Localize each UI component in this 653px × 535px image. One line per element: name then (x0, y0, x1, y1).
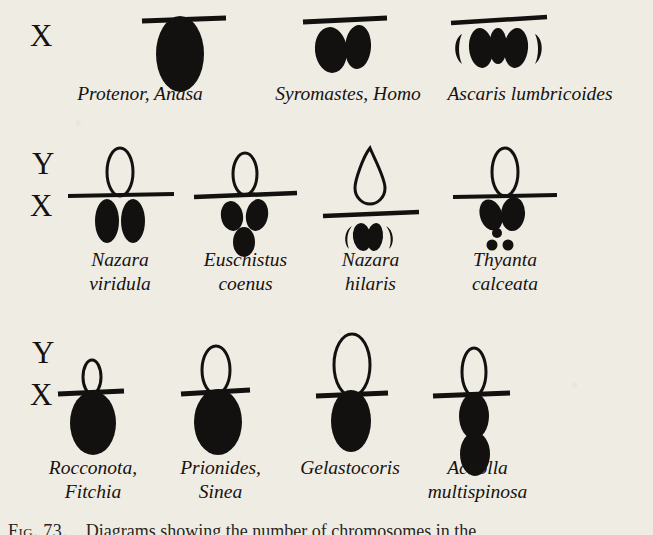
spindle-bar (451, 17, 547, 23)
svg-acholla-multispinosa (420, 330, 545, 470)
x-chromosome-left (95, 199, 119, 243)
diagram-nazara-hilaris (315, 140, 425, 250)
diagram-ascaris-lumbricoides (435, 8, 565, 88)
caption-acholla-multispinosa: Acholla multispinosa (395, 456, 560, 504)
caption-prionides-sinea: Prionides, Sinea (148, 456, 293, 504)
caption-nazara-hilaris: Nazara hilaris (308, 248, 433, 296)
chromosome-crescent-right (535, 34, 542, 64)
caption-nazara-viridula: Nazara viridula (55, 248, 185, 296)
spindle-bar (58, 391, 124, 394)
svg-syromastes-homo (290, 8, 400, 88)
svg-protenor-anasa (120, 8, 240, 88)
x-chromosome-dot-1 (492, 228, 502, 238)
chromosome-crescent-left (455, 34, 462, 64)
figure-caption-text: Diagrams showing the number of chromosom… (86, 521, 476, 535)
y-chromosome-outline (462, 348, 486, 396)
y-chromosome-outline (233, 153, 257, 195)
svg-ascaris-lumbricoides (435, 8, 565, 88)
spindle-bar (303, 18, 387, 22)
row-3-axis-label-y: Y (32, 337, 54, 368)
spindle-bar (68, 194, 174, 196)
diagram-nazara-viridula (62, 145, 178, 255)
x-chromosome-right (121, 199, 145, 243)
x-chromosome-right (500, 196, 527, 232)
diagram-gelastocoris (300, 326, 425, 456)
spindle-bar (316, 393, 388, 396)
figure-number: Fig. 73. (8, 521, 67, 535)
diagram-syromastes-homo (290, 8, 400, 88)
x-chromosome-upper-right (243, 197, 270, 232)
spindle-bar (323, 212, 419, 216)
spindle-bar (142, 18, 226, 21)
caption-protenor-anasa: Protenor, Anasa (40, 82, 240, 106)
svg-gelastocoris (300, 326, 425, 456)
caption-rocconota-fitchia: Rocconota, Fitchia (18, 456, 168, 504)
svg-euschistus-coenus (187, 145, 303, 260)
x-chromosome-crescent-left (345, 226, 352, 249)
y-chromosome-outline (83, 360, 101, 394)
svg-nazara-hilaris (315, 140, 425, 250)
caption-euschistus-coenus: Euschistus coenus (178, 248, 313, 296)
figure-caption: Fig. 73. Diagrams showing the number of … (8, 521, 653, 535)
chromosome-figure: X Protenor, Anasa Syromastes, Homo Ascar… (0, 0, 653, 535)
diagram-euschistus-coenus (187, 145, 303, 260)
svg-rocconota-fitchia (58, 336, 178, 461)
svg-nazara-viridula (62, 145, 178, 255)
y-chromosome-outline (492, 148, 518, 196)
spindle-bar (433, 393, 510, 396)
diagram-protenor-anasa (120, 8, 240, 88)
diagram-rocconota-fitchia (58, 336, 178, 461)
row-2-axis-label-x: X (30, 190, 52, 221)
x-chromosome-solid (194, 389, 242, 455)
row-2-axis-label-y: Y (32, 148, 54, 179)
caption-ascaris-lumbricoides: Ascaris lumbricoides (420, 82, 640, 106)
diagram-acholla-multispinosa (420, 330, 545, 470)
y-chromosome-outline (107, 148, 133, 196)
spindle-bar (194, 193, 297, 197)
row-1-axis-label-x: X (30, 20, 52, 51)
spindle-bar (453, 195, 557, 197)
caption-thyanta-calceata: Thyanta calceata (440, 248, 570, 296)
x-chromosome-solid (156, 16, 204, 92)
row-3-axis-label-x: X (30, 379, 52, 410)
y-chromosome-pear-outline (355, 148, 385, 204)
chromosome-4 (502, 27, 529, 69)
x-chromosome-solid (70, 391, 116, 455)
svg-prionides-sinea (178, 330, 303, 460)
spindle-bar (181, 390, 250, 394)
diagram-prionides-sinea (178, 330, 303, 460)
y-chromosome-outline (202, 346, 230, 394)
x-chromosome-left (313, 25, 350, 74)
x-chromosome-crescent-right (386, 226, 393, 249)
svg-thyanta-calceata (445, 145, 565, 260)
x-chromosome-right (343, 24, 372, 70)
x-chromosome-solid (331, 390, 371, 452)
y-chromosome-outline (334, 334, 370, 396)
diagram-thyanta-calceata (445, 145, 565, 260)
